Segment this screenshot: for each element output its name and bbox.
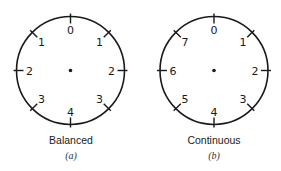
dial-a-position-label: 0 [67,24,74,37]
dial-a-position-label: 3 [38,93,45,106]
dial-b-position-label: 1 [239,36,246,49]
dial-b-position-label: 0 [211,24,218,37]
dial-a-caption: Balanced [21,134,121,146]
dial-b-center-dot [212,69,216,73]
dial-a-position-label: 1 [96,36,103,49]
dial-b-position-label: 2 [252,65,259,78]
dial-a-position-label: 3 [96,93,103,106]
dial-b-position-label: 5 [182,93,189,106]
dial-b-position-label: 6 [170,65,177,78]
dial-a-position-label: 2 [26,65,33,78]
dial-b: 01234567 [157,14,271,128]
dial-a-position-label: 4 [67,106,74,119]
dial-b-caption: Continuous [164,134,264,146]
dial-b-sublabel: (b) [164,150,264,161]
dial-a-position-label: 2 [108,65,115,78]
dial-comparison-figure: 01234321 01234567 Balanced (a) Continuou… [0,0,281,171]
dial-b-position-label: 7 [182,36,189,49]
dial-b-position-label: 4 [211,106,218,119]
dial-a-position-label: 1 [38,36,45,49]
dial-a-center-dot [69,69,73,73]
dial-b-position-label: 3 [239,93,246,106]
dial-a-sublabel: (a) [21,150,121,161]
dial-a: 01234321 [14,14,128,128]
